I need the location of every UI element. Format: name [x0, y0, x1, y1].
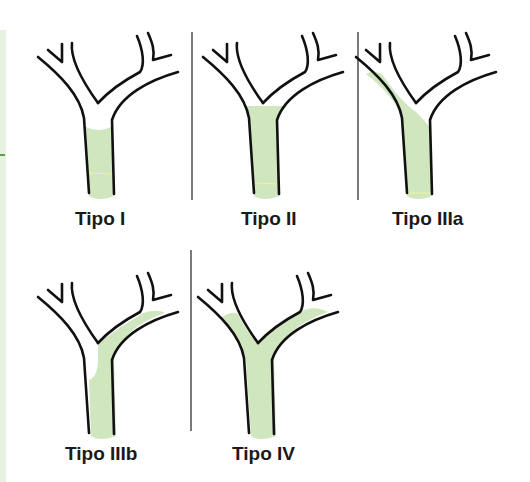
panel-tipo-iv	[198, 273, 338, 439]
panel-tipo-i	[38, 33, 178, 199]
diagram-canvas	[0, 0, 530, 482]
panel-tipo-iiia	[356, 33, 496, 199]
label-tipo-iv: Tipo IV	[232, 443, 295, 465]
highlight-common-duct-right-branch	[89, 311, 165, 439]
panel-tipo-iiib	[38, 273, 178, 439]
panel-tipo-ii	[203, 33, 343, 199]
label-tipo-i: Tipo I	[75, 208, 125, 230]
label-tipo-iiia: Tipo IIIa	[392, 208, 463, 230]
label-tipo-ii: Tipo II	[241, 208, 297, 230]
highlight-common-duct-left-branch	[366, 72, 432, 199]
highlight-common-duct	[86, 126, 114, 199]
label-tipo-iiib: Tipo IIIb	[65, 443, 137, 465]
